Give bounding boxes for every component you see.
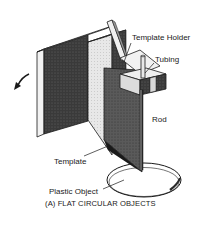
- template-leader: [84, 146, 108, 156]
- tubing-label: Tubing: [155, 56, 179, 64]
- rod-label: Rod: [152, 116, 167, 124]
- template-holder-label: Template Holder: [132, 34, 190, 42]
- figure-caption: (A) FLAT CIRCULAR OBJECTS: [45, 199, 156, 208]
- plastic-object-disc: [107, 163, 181, 197]
- plastic-object-label: Plastic Object: [49, 188, 98, 196]
- tubing: [141, 55, 145, 78]
- template-label: Template: [54, 158, 86, 166]
- curved-arrow-icon: [14, 74, 29, 90]
- rod: [140, 90, 143, 170]
- diagram-figure: Template Holder Tubing Rod Template Plas…: [0, 0, 206, 227]
